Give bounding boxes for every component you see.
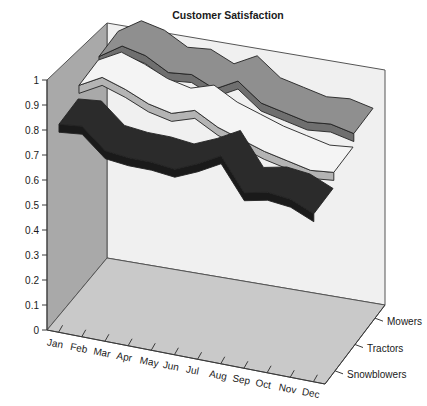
series-label-mowers: Mowers [387,316,422,327]
y-axis-tick-label: 0.5 [25,200,39,211]
y-axis-tick-label: 0.9 [25,100,39,111]
x-axis-tick-label: May [139,354,160,368]
customer-satisfaction-3d-line-chart: 00.10.20.30.40.50.60.70.80.91 JanFebMarA… [0,0,427,406]
chart-title: Customer Satisfaction [172,9,283,21]
x-axis-tick-label: Nov [278,381,298,395]
x-axis-tick-label: Feb [69,341,88,355]
y-axis-tick-label: 0.4 [25,225,39,236]
depth-axis-tick-mark [335,371,343,374]
depth-axis-tick-mark [355,345,363,348]
depth-axis-tick-mark [375,318,383,321]
y-axis-tick-label: 0.1 [25,300,39,311]
x-axis-tick-label: Jul [185,363,200,376]
x-axis-tick-label: Aug [208,368,228,382]
x-axis-tick-label: Oct [255,377,273,391]
chart-container: 00.10.20.30.40.50.60.70.80.91 JanFebMarA… [0,0,427,406]
x-axis-tick-label: Apr [116,350,134,364]
series-label-tractors: Tractors [367,343,403,354]
y-axis-tick-marks [42,80,47,330]
y-axis-tick-labels: 00.10.20.30.40.50.60.70.80.91 [25,75,39,336]
x-axis-tick-label: Mar [93,345,113,359]
x-axis-tick-label: Jun [162,359,180,373]
y-axis-tick-label: 0 [33,325,39,336]
x-axis-tick-label: Jan [46,336,64,350]
y-axis-tick-label: 1 [33,75,39,86]
y-axis-tick-label: 0.7 [25,150,39,161]
x-axis-tick-label: Sep [232,372,252,386]
y-axis-tick-label: 0.3 [25,250,39,261]
y-axis-tick-label: 0.8 [25,125,39,136]
x-axis-tick-label: Dec [301,386,321,400]
y-axis-tick-label: 0.2 [25,275,39,286]
series-label-snowblowers: Snowblowers [347,369,406,380]
y-axis-tick-label: 0.6 [25,175,39,186]
